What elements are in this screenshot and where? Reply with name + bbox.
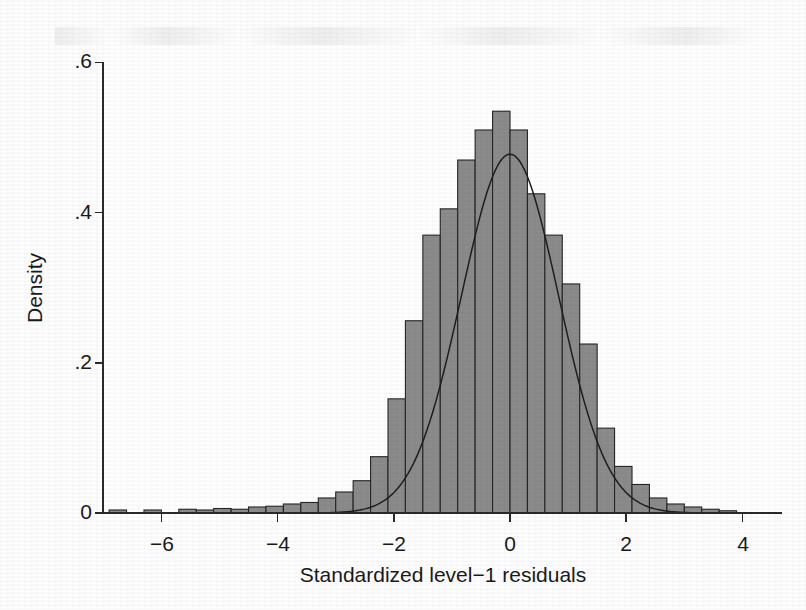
chart-canvas: 0 .2 .4 .6 −6 −4 −2 0 2 4 Standardized l…: [0, 0, 806, 610]
histogram-bar: [475, 130, 492, 513]
histogram-bar: [545, 235, 562, 513]
x-tick-label-minus2: −2: [382, 532, 406, 555]
histogram-bar: [405, 321, 422, 513]
histogram-bar: [510, 130, 527, 513]
histogram-bar: [597, 428, 614, 513]
y-axis-title: Density: [23, 252, 46, 323]
histogram-bar: [527, 194, 544, 513]
histogram-bar: [283, 504, 300, 513]
x-tick-label-minus4: −4: [266, 532, 290, 555]
histogram-bar: [632, 484, 649, 513]
x-tick-label-minus6: −6: [150, 532, 174, 555]
histogram-figure: 0 .2 .4 .6 −6 −4 −2 0 2 4 Standardized l…: [0, 0, 806, 610]
y-tick-label-2: .2: [74, 350, 92, 373]
x-tick-label-4: 4: [737, 532, 749, 555]
histogram-bar: [580, 344, 597, 513]
histogram-bar: [301, 502, 318, 513]
histogram-bar: [371, 457, 388, 513]
histogram-bar: [562, 284, 579, 513]
histogram-bar: [249, 507, 266, 513]
x-axis-title: Standardized level−1 residuals: [300, 563, 587, 586]
y-tick-label-6: .6: [74, 49, 92, 72]
x-axis-ticks: [161, 513, 742, 522]
histogram-bar: [440, 209, 457, 513]
y-axis-ticks: [95, 62, 103, 513]
y-tick-label-4: .4: [74, 200, 92, 223]
y-tick-label-0: 0: [80, 500, 92, 523]
histogram-bar: [336, 492, 353, 513]
histogram-bar: [318, 498, 335, 513]
x-tick-label-0: 0: [504, 532, 516, 555]
histogram-bar: [266, 506, 283, 513]
histogram-bar: [458, 160, 475, 513]
histogram-bar: [423, 235, 440, 513]
x-tick-label-2: 2: [620, 532, 632, 555]
